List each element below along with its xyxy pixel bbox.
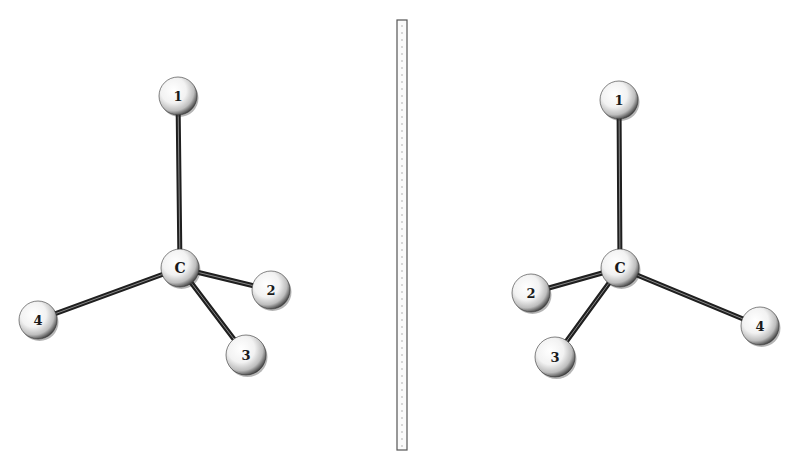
- mirror-frame: [397, 20, 407, 450]
- mirror-dot: [401, 53, 402, 54]
- mirror-dot: [401, 256, 402, 257]
- mirror-dot: [401, 242, 402, 243]
- mirror-dot: [401, 123, 402, 124]
- mirror-dot: [401, 347, 402, 348]
- mirror-dot: [401, 130, 402, 131]
- enantiomer-diagram: C1234 C1234: [0, 0, 799, 454]
- mirror-dot: [401, 95, 402, 96]
- mirror-dot: [401, 200, 402, 201]
- atom-label: 4: [33, 313, 42, 328]
- right-atom-1: 1: [600, 81, 640, 121]
- mirror-dot: [401, 60, 402, 61]
- mirror-plane: [397, 20, 407, 450]
- mirror-dot: [401, 144, 402, 145]
- mirror-dot: [401, 382, 402, 383]
- mirror-dot: [401, 424, 402, 425]
- mirror-dot: [401, 375, 402, 376]
- mirror-dot: [401, 186, 402, 187]
- mirror-dot: [401, 438, 402, 439]
- mirror-dot: [401, 270, 402, 271]
- mirror-dot: [401, 305, 402, 306]
- right-molecule-atoms: C1234: [512, 81, 781, 379]
- mirror-dot: [401, 410, 402, 411]
- left-atom-3: 3: [226, 335, 268, 377]
- mirror-dot: [401, 389, 402, 390]
- mirror-dot: [401, 207, 402, 208]
- mirror-dot: [401, 263, 402, 264]
- mirror-dot: [401, 214, 402, 215]
- atom-label: 4: [755, 319, 764, 334]
- mirror-dot: [401, 88, 402, 89]
- mirror-dot: [401, 354, 402, 355]
- mirror-dot: [401, 221, 402, 222]
- mirror-dot: [401, 403, 402, 404]
- mirror-dot: [401, 333, 402, 334]
- atom-label: 3: [550, 350, 559, 365]
- mirror-dot: [401, 326, 402, 327]
- right-atom-4: 4: [741, 307, 781, 347]
- mirror-dot: [401, 102, 402, 103]
- mirror-dot: [401, 249, 402, 250]
- mirror-dot: [401, 235, 402, 236]
- mirror-dot: [401, 298, 402, 299]
- left-atom-carbon: C: [161, 249, 201, 289]
- left-molecule-bonds: [38, 96, 271, 355]
- right-atom-3: 3: [535, 337, 577, 379]
- atom-label: 2: [266, 283, 275, 298]
- left-atom-2: 2: [252, 271, 292, 311]
- right-atom-2: 2: [512, 274, 552, 314]
- mirror-dot: [401, 46, 402, 47]
- mirror-dot: [401, 312, 402, 313]
- mirror-dot: [401, 158, 402, 159]
- right-molecule-bonds: [531, 100, 760, 357]
- atom-label: 1: [614, 93, 623, 108]
- mirror-dot: [401, 109, 402, 110]
- left-atom-1: 1: [159, 77, 199, 117]
- mirror-dot: [401, 284, 402, 285]
- atom-label: C: [174, 260, 185, 276]
- atom-label: 1: [173, 89, 182, 104]
- mirror-dot: [401, 368, 402, 369]
- mirror-dot: [401, 172, 402, 173]
- mirror-dot: [401, 396, 402, 397]
- mirror-dot: [401, 361, 402, 362]
- mirror-dot: [401, 151, 402, 152]
- mirror-dot: [401, 32, 402, 33]
- mirror-dot: [401, 116, 402, 117]
- mirror-dot: [401, 417, 402, 418]
- left-bond-highlight-4: [38, 268, 180, 320]
- mirror-dot: [401, 340, 402, 341]
- mirror-dot: [401, 193, 402, 194]
- mirror-dot: [401, 319, 402, 320]
- left-atom-4: 4: [19, 301, 59, 341]
- mirror-dot: [401, 165, 402, 166]
- mirror-dot: [401, 67, 402, 68]
- mirror-dot: [401, 445, 402, 446]
- mirror-dot: [401, 137, 402, 138]
- left-molecule-atoms: C1234: [19, 77, 292, 377]
- mirror-dot: [401, 39, 402, 40]
- atom-label: 3: [241, 348, 250, 363]
- mirror-dot: [401, 179, 402, 180]
- mirror-dot: [401, 291, 402, 292]
- right-bond-highlight-4: [620, 268, 760, 326]
- atom-label: C: [614, 260, 625, 276]
- mirror-dot: [401, 74, 402, 75]
- mirror-dot: [401, 228, 402, 229]
- atom-label: 2: [526, 286, 535, 301]
- mirror-dot: [401, 431, 402, 432]
- mirror-dot: [401, 25, 402, 26]
- mirror-dot: [401, 277, 402, 278]
- mirror-dot: [401, 81, 402, 82]
